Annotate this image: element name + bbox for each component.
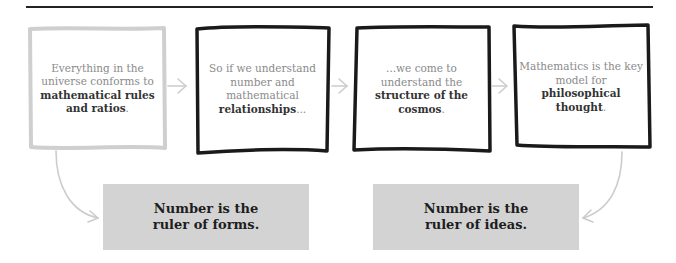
step-text-4: Mathematics is the key model for philoso… — [511, 60, 651, 114]
curved-arrow-down-right-icon — [56, 151, 98, 222]
step-text-3: ...we come to understand the structure o… — [352, 62, 491, 116]
step-text-1: Everything in the universe conforms to m… — [28, 62, 167, 116]
arrow-right-icon — [492, 79, 507, 93]
step-box-2: So if we understand number and mathemati… — [194, 24, 331, 154]
step-box-3: ...we come to understand the structure o… — [352, 24, 491, 154]
step-box-4: Mathematics is the key model for philoso… — [511, 23, 651, 151]
top-rule — [26, 6, 653, 8]
arrow-right-icon — [332, 79, 347, 93]
step-box-1: Everything in the universe conforms to m… — [28, 26, 167, 151]
arrow-right-icon — [168, 79, 186, 93]
step-text-2: So if we understand number and mathemati… — [194, 62, 331, 116]
conclusion-box-ideas: Number is the ruler of ideas. — [373, 184, 579, 250]
curved-arrow-down-left-icon — [583, 152, 622, 222]
conclusion-box-forms: Number is the ruler of forms. — [103, 184, 309, 250]
